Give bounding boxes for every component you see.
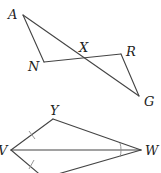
tick-mark-VY xyxy=(29,131,35,139)
label-G: G xyxy=(144,94,154,109)
segment-YW xyxy=(53,119,141,150)
label-V: V xyxy=(0,143,9,158)
label-R: R xyxy=(125,44,136,59)
angle-arc-YWV xyxy=(120,143,121,150)
geometry-figure: A N X R G Y V W xyxy=(0,0,161,173)
bottom-figure: Y V W xyxy=(0,103,160,173)
label-X: X xyxy=(78,40,89,55)
segment-NR xyxy=(44,54,121,62)
segment-VZ xyxy=(11,150,44,173)
segment-ZW xyxy=(44,150,141,173)
label-N: N xyxy=(27,59,40,74)
top-figure: A N X R G xyxy=(7,7,154,109)
label-W: W xyxy=(145,143,160,158)
label-Y: Y xyxy=(50,103,60,118)
label-A: A xyxy=(7,7,17,22)
